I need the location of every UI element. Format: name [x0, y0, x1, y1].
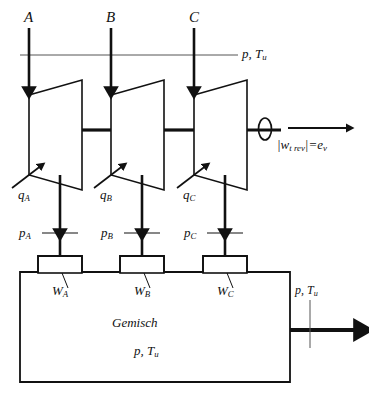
stream-group-b	[94, 28, 164, 288]
nozzle-label-b-text: W	[134, 283, 145, 298]
nozzle-box-a	[38, 256, 82, 273]
shaft-work-symbol: w	[281, 137, 290, 152]
heat-label-a-subscript: A	[25, 193, 30, 203]
heat-label-b: qB	[100, 188, 112, 203]
tank-state-label: p, Tu	[134, 344, 159, 359]
nozzle-label-b-subscript: B	[145, 289, 150, 299]
pressure-label-a: pA	[19, 226, 31, 241]
nozzle-box-b	[120, 256, 164, 273]
pressure-label-a-subscript: A	[26, 231, 31, 241]
tank-state-label-text: p, T	[134, 343, 154, 358]
tank-state-label-subscript: u	[154, 349, 158, 359]
nozzle-label-a: WA	[52, 284, 68, 299]
shaft-work-equals: =	[308, 137, 317, 152]
nozzle-label-c-subscript: C	[228, 289, 234, 299]
turbine-a	[29, 80, 82, 190]
nozzle-label-b: WB	[134, 284, 150, 299]
outlet-state-label-text: p, T	[295, 283, 314, 297]
nozzle-box-c	[203, 256, 247, 273]
outlet-state-label-subscript: u	[314, 289, 318, 298]
pressure-label-c: pC	[184, 226, 196, 241]
heat-label-b-subscript: B	[107, 193, 112, 203]
ambient-state-label: p, Tu	[242, 47, 267, 62]
heat-arrow-a	[12, 165, 42, 188]
pressure-label-c-subscript: C	[191, 231, 197, 241]
diagram-canvas: A B C p, Tu qA qB qC pA pB pC WA WB WC |…	[0, 0, 369, 398]
shaft-work-result-subscript: v	[323, 143, 327, 153]
heat-arrow-c	[177, 165, 207, 188]
heat-label-c-subscript: C	[190, 193, 196, 203]
ambient-state-label-text: p, T	[242, 46, 262, 61]
outlet-state-label: p, Tu	[295, 284, 318, 298]
tank-content-label: Gemisch	[112, 316, 158, 329]
inlet-label-c: C	[189, 10, 199, 25]
heat-label-c: qC	[183, 188, 195, 203]
inlet-label-b: B	[106, 10, 115, 25]
nozzle-label-a-subscript: A	[63, 289, 68, 299]
turbine-b	[111, 80, 164, 190]
stream-group-c	[177, 28, 247, 288]
shaft-work-equation: |wt rev|=ev	[277, 138, 327, 153]
nozzle-label-a-text: W	[52, 283, 63, 298]
heat-label-a: qA	[18, 188, 30, 203]
turbine-c	[194, 80, 247, 190]
shaft-work-symbol-subscript: t rev	[289, 143, 305, 153]
stream-group-a	[12, 28, 82, 288]
mixing-tank-group	[20, 256, 362, 382]
heat-arrow-b	[94, 165, 124, 188]
inlet-label-a: A	[24, 10, 33, 25]
nozzle-label-c-text: W	[217, 283, 228, 298]
pressure-label-b-subscript: B	[108, 231, 113, 241]
ambient-state-label-subscript: u	[262, 52, 266, 62]
pressure-label-b: pB	[101, 226, 113, 241]
nozzle-label-c: WC	[217, 284, 234, 299]
